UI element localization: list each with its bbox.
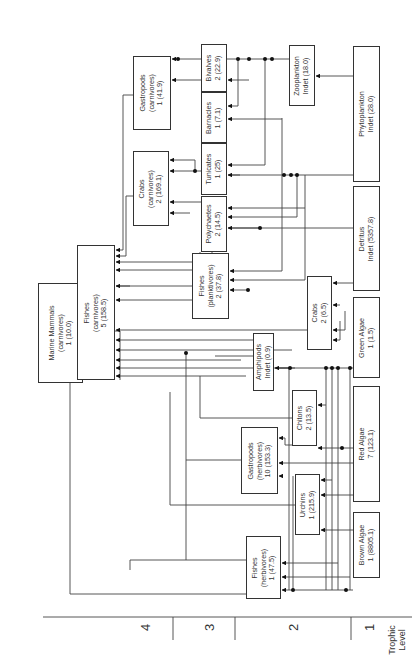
node-phytoplankton: Phytoplankton Indet (28.0) <box>353 46 380 182</box>
node-fishes-carnivores: Fishes (carnivores) 5 (158.5) <box>77 245 115 380</box>
node-crabs: Crabs 2 (6.5) <box>307 276 332 350</box>
node-label: Fishes (planktivores) 2 (37.8) <box>198 264 224 307</box>
node-label: Chitons 2 (13.5) <box>296 406 313 431</box>
node-label: Red Algae 7 (123.1) <box>358 427 375 460</box>
node-label: Crabs (carnivores) 2 (169.1) <box>138 170 164 208</box>
node-label: Marine Mammals (carnivores) 1 (10.0) <box>48 305 74 360</box>
node-label: Barnacles 1 (7.1) <box>205 102 222 134</box>
node-label: Brown Algae 1 (8805.1) <box>358 525 375 565</box>
node-amphipods: Amphipods Indet (0.9) <box>253 333 274 391</box>
node-label: Green Algae 1 (1.5) <box>358 318 375 358</box>
node-label: Zooplankton Indet (18.0) <box>293 56 310 96</box>
node-red-algae: Red Algae 7 (123.1) <box>353 386 380 502</box>
node-barnacles: Barnacles 1 (7.1) <box>201 91 227 143</box>
node-fishes-planktivores: Fishes (planktivores) 2 (37.8) <box>192 253 229 319</box>
food-web-diagram: Marine Mammals (carnivores) 1 (10.0) Fis… <box>0 0 412 665</box>
node-gastropods-carnivores: Gastropods (carnivores) 1 (41.9) <box>133 56 171 130</box>
trophic-level-2-label: 2 <box>286 624 301 631</box>
node-label: Amphipods Indet (0.9) <box>255 344 272 380</box>
node-label: Fishes (herbivores) 1 (47.5) <box>251 548 277 586</box>
node-label: Polychaetes 2 (14.5) <box>205 204 222 243</box>
node-urchins: Urchins 1 (215.9) <box>295 474 320 535</box>
trophic-level-1-label: 1 <box>362 624 377 631</box>
node-chitons: Chitons 2 (13.5) <box>292 390 317 446</box>
node-gastropods-herbivores: Gastropods (herbivores) 10 (153.3) <box>241 427 278 494</box>
node-label: Bivalves 2 (22.9) <box>205 55 222 82</box>
node-label: Phytoplankton Indet (28.0) <box>358 91 375 137</box>
node-fishes-herbivores: Fishes (herbivores) 1 (47.5) <box>246 536 281 599</box>
node-label: Urchins 1 (215.9) <box>299 490 316 519</box>
node-label: Fishes (carnivores) 5 (158.5) <box>83 294 109 332</box>
trophic-level-axis-title: Trophic Level <box>387 625 407 655</box>
node-label: Tunicates 1 (25) <box>205 154 222 185</box>
node-green-algae: Green Algae 1 (1.5) <box>353 297 380 378</box>
node-tunicates: Tunicates 1 (25) <box>201 143 227 195</box>
node-polychaetes: Polychaetes 2 (14.5) <box>201 196 227 252</box>
node-zooplankton: Zooplankton Indet (18.0) <box>289 45 315 106</box>
node-label: Detritus Indet (5357.8) <box>358 216 375 261</box>
node-bivalves: Bivalves 2 (22.9) <box>201 44 227 92</box>
node-detritus: Detritus Indet (5357.8) <box>353 186 380 291</box>
node-crabs-carnivores: Crabs (carnivores) 2 (169.1) <box>133 151 169 226</box>
node-brown-algae: Brown Algae 1 (8805.1) <box>353 512 380 578</box>
node-label: Gastropods (herbivores) 10 (153.3) <box>247 441 273 479</box>
node-label: Gastropods (carnivores) 1 (41.9) <box>139 74 165 112</box>
node-label: Crabs 2 (6.5) <box>311 303 328 324</box>
trophic-level-4-label: 4 <box>138 624 153 631</box>
trophic-level-3-label: 3 <box>202 624 217 631</box>
